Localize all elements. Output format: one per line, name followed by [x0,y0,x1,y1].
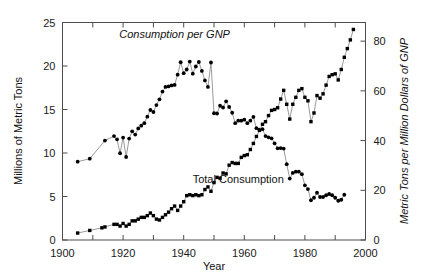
tick-label-left-15: 15 [43,104,55,116]
data-point [303,96,306,99]
data-point [306,187,310,191]
data-point [288,117,291,120]
data-point [203,79,207,83]
data-point [200,193,203,196]
data-point [300,87,303,90]
data-point [270,109,273,112]
data-point [203,188,206,191]
data-point [121,136,125,140]
annotation-2: Total Consumption [193,173,284,185]
tick-label-left-0: 0 [49,234,55,246]
data-point [327,75,330,78]
tick-label-right-0: 0 [374,234,380,246]
data-point [282,147,286,151]
data-point [245,121,249,125]
data-point [334,72,337,75]
data-point [270,136,274,140]
data-point [209,190,212,193]
data-point [191,72,195,76]
data-point [130,219,133,222]
data-point [140,216,143,219]
data-point [267,114,270,117]
data-point [158,218,161,221]
data-point [76,160,80,164]
data-point [134,219,137,222]
data-point [173,204,176,207]
data-point [312,196,316,200]
data-point [300,172,304,176]
data-point [206,85,210,89]
data-point [179,204,182,207]
data-point [237,162,240,165]
data-point [249,148,252,151]
data-point [197,60,201,64]
data-point [291,103,294,106]
data-point [285,103,288,106]
data-point [115,223,118,226]
data-point [118,151,122,155]
data-point [215,112,219,116]
tick-label-bottom-1900: 1900 [50,247,74,259]
tick-label-bottom-1920: 1920 [111,247,135,259]
data-point [152,110,156,114]
tick-label-right-20: 20 [374,184,386,196]
data-point [276,106,279,109]
tick-label-left-10: 10 [43,147,55,159]
data-point [176,73,180,77]
data-point [318,96,321,99]
data-point [252,142,255,145]
data-point [112,134,116,138]
data-point [191,194,194,197]
tick-label-bottom-1980: 1980 [293,247,317,259]
data-point [76,231,79,234]
tick-label-bottom-1940: 1940 [171,247,195,259]
data-point [209,61,213,65]
data-point [330,73,333,76]
data-point [88,157,92,161]
data-point [352,28,355,31]
data-point [179,60,183,64]
data-point [251,115,255,119]
data-point [246,153,249,156]
data-point [188,193,191,196]
data-point [315,94,318,97]
data-point [146,214,149,217]
data-point [264,120,267,123]
data-point [255,135,258,138]
data-point [261,123,264,126]
data-point [115,137,119,141]
data-point [185,194,188,197]
data-point [155,103,159,107]
tick-label-left-25: 25 [43,17,55,29]
data-point [167,210,170,213]
data-point [130,129,134,133]
data-point [324,83,327,86]
data-point [185,68,189,72]
data-point [346,47,349,50]
data-point [149,211,152,214]
data-point [248,119,252,123]
data-point [182,71,186,75]
data-point [127,223,130,226]
data-point [340,68,343,71]
data-point [339,198,343,202]
data-point [306,99,309,102]
data-point [152,214,155,217]
data-point [103,225,106,228]
data-point [242,118,246,122]
data-point [161,216,164,219]
tick-label-bottom-1960: 1960 [232,247,256,259]
data-point [145,115,149,119]
data-point [161,90,165,94]
data-point [206,185,209,188]
data-point [309,198,313,202]
data-point [294,96,297,99]
y-axis-title-left: Millions of Metric Tons [12,77,24,185]
data-point [170,207,173,210]
tick-label-right-60: 60 [374,85,386,97]
data-point [182,200,185,203]
data-point [118,224,121,227]
data-point [297,89,300,92]
data-point [303,183,307,187]
data-point [342,193,346,197]
